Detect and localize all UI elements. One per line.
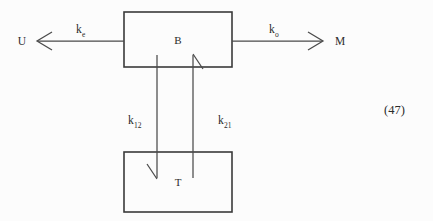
rate-label-k12-subscript: 12 xyxy=(134,121,142,130)
arrow-head-k12 xyxy=(147,164,157,179)
kinetic-compartment-diagram: B T U M k e k o k 12 k 21 (47) xyxy=(0,0,433,221)
rate-label-ke-subscript: e xyxy=(82,30,86,39)
rate-label-k21-subscript: 21 xyxy=(224,121,232,130)
equation-number: (47) xyxy=(384,103,405,117)
compartment-label-b: B xyxy=(174,34,181,46)
terminal-label-m: M xyxy=(335,35,345,47)
rate-label-ko-subscript: o xyxy=(275,30,279,39)
compartment-label-t: T xyxy=(175,176,182,188)
terminal-label-u: U xyxy=(18,35,27,47)
